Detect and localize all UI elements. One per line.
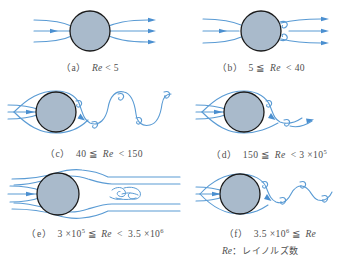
streamline-lower-in (8, 114, 40, 119)
panel-c-label: （c） (45, 148, 71, 159)
panel-a-condition: < 5 (105, 62, 119, 73)
panel-b-lower-bound: 5 ≦ (248, 62, 264, 73)
panel-b-upper-bound: < 40 (286, 62, 305, 73)
cylinder-body (241, 11, 281, 51)
panel-e-left-base: 10 (71, 228, 81, 239)
panel-d-re-symbol: Re (275, 149, 286, 160)
streamline-upper-in (34, 20, 74, 27)
panel-d-label: （d） (211, 149, 237, 160)
panel-d-upper-exponent: 5 (324, 148, 327, 155)
panel-b-diagram (177, 6, 345, 56)
cylinder-body (70, 11, 110, 51)
eddy-1 (112, 187, 126, 196)
panel-e-caption: （e） 3 ×105 ≦ Re < 3.5 ×106 (4, 227, 186, 241)
streamline-outer-upper (12, 170, 180, 179)
panel-f-diagram (192, 166, 348, 222)
eddy-tail-3 (110, 197, 121, 199)
streamline-lower-in (203, 36, 244, 43)
panel-d-diagram (190, 82, 348, 142)
shed-vortices (262, 181, 328, 204)
panel-d-caption: （d） 150 ≦ Re < 3 ×105 (190, 148, 348, 162)
vortex-3 (118, 93, 124, 100)
karman-vortex-street-wake (80, 92, 171, 126)
panel-c: （c） 40 ≦ Re < 150 (4, 82, 184, 161)
panel-a: （a） Re < 5 (6, 6, 174, 75)
panel-e-right-exponent: 6 (160, 227, 163, 234)
panel-e-left-relation: ≦ (88, 228, 96, 239)
panel-e-diagram (4, 166, 186, 222)
vortex-2 (280, 197, 286, 204)
streamline-upper-out (106, 20, 148, 27)
legend-definition: レイノルズ数 (242, 246, 298, 256)
legend-symbol: Re (222, 245, 232, 256)
cylinder-body (37, 173, 79, 215)
streamline-lower-out (106, 35, 148, 42)
panel-c-diagram (4, 82, 184, 142)
panel-e-left-mantissa: 3 × (57, 228, 71, 239)
panel-c-lower-bound: 40 ≦ (76, 148, 98, 159)
panel-d-upper-mantissa: < 3 × (291, 149, 313, 160)
panel-f-caption: （f） 3.5 ×106 ≦ Re (192, 227, 348, 241)
panel-e-right-base: 10 (150, 228, 160, 239)
flow-arrowheads (26, 192, 35, 196)
panel-f-left-exponent: 6 (286, 227, 289, 234)
panel-f-label: （f） (224, 228, 249, 239)
panel-d-upper-base: 10 (313, 149, 323, 160)
streamline-upper-out (281, 19, 321, 23)
panel-a-caption: （a） Re < 5 (6, 62, 174, 75)
panel-f: （f） 3.5 ×106 ≦ Re (192, 166, 348, 241)
panel-b-label: （b） (217, 62, 243, 73)
panel-e: （e） 3 ×105 ≦ Re < 3.5 ×106 (4, 166, 186, 241)
panel-b-caption: （b） 5 ≦ Re < 40 (177, 62, 345, 75)
panel-c-re-symbol: Re (103, 148, 114, 159)
panel-a-re-symbol: Re (92, 62, 103, 73)
panel-e-left-exponent: 5 (82, 227, 85, 234)
streamline-upper-in (203, 19, 244, 26)
reynolds-number-legend: Re：レイノルズ数 (222, 243, 299, 257)
panel-b-re-symbol: Re (270, 62, 281, 73)
panel-d-lower-bound: 150 ≦ (243, 149, 270, 160)
streamline-upper-in (8, 105, 40, 110)
streamline-upper-in (196, 105, 228, 110)
turbulent-eddies (110, 187, 140, 199)
panel-b: （b） 5 ≦ Re < 40 (177, 6, 345, 75)
turbulent-wake-edge (270, 106, 302, 123)
panel-e-re-symbol: Re (101, 228, 112, 239)
legend-separator: ： (232, 245, 242, 256)
eddy-tail-2 (122, 193, 138, 195)
panel-a-diagram (6, 6, 174, 56)
panel-a-label: （a） (61, 62, 87, 73)
panel-c-upper-bound: < 150 (119, 148, 143, 159)
cylinder-body (224, 92, 264, 132)
streamline-outer-lower (12, 209, 180, 218)
panel-e-label: （e） (26, 228, 52, 239)
panel-f-left-base: 10 (276, 228, 286, 239)
panel-f-left-mantissa: 3.5 × (254, 228, 276, 239)
panel-f-re-symbol: Re (305, 228, 316, 239)
cylinder-body (220, 174, 260, 214)
panel-e-right-mantissa: 3.5 × (128, 228, 150, 239)
panel-c-caption: （c） 40 ≦ Re < 150 (4, 148, 184, 161)
streamline-lower-out (281, 39, 321, 43)
streamline-lower-in (196, 114, 228, 119)
vortex-2 (92, 121, 98, 128)
panel-f-left-relation: ≦ (292, 228, 300, 239)
panel-d: （d） 150 ≦ Re < 3 ×105 (190, 82, 348, 162)
vortex-3 (300, 181, 306, 188)
cylinder-body (36, 92, 76, 132)
panel-e-right-relation: < (117, 228, 123, 239)
streamline-lower-in (34, 35, 74, 42)
flow-regime-figure: （a） Re < 5 (0, 0, 351, 269)
